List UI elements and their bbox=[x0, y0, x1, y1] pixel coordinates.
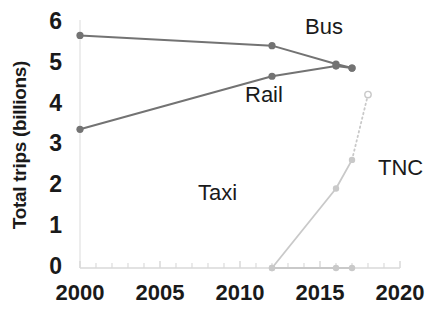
series-tnc bbox=[269, 91, 371, 271]
data-point bbox=[333, 265, 339, 271]
series-rail bbox=[76, 62, 355, 132]
plot-area bbox=[0, 0, 442, 315]
series-line-segment bbox=[80, 35, 272, 45]
data-point bbox=[349, 265, 355, 271]
series-layer bbox=[76, 32, 371, 271]
series-line-segment bbox=[352, 95, 368, 160]
series-line-segment bbox=[336, 160, 352, 189]
series-label-taxi: Taxi bbox=[198, 180, 237, 206]
data-point bbox=[269, 265, 275, 271]
series-line-segment bbox=[272, 188, 336, 268]
series-line-segment bbox=[272, 66, 336, 76]
series-line-segment bbox=[272, 46, 336, 64]
series-label-rail: Rail bbox=[245, 82, 283, 108]
series-label-bus: Bus bbox=[305, 14, 343, 40]
data-point bbox=[76, 126, 83, 133]
data-point bbox=[333, 185, 339, 191]
data-point bbox=[332, 62, 339, 69]
line-chart: Total trips (billions) 6 5 4 3 2 1 0 200… bbox=[0, 0, 442, 315]
series-label-tnc: TNC bbox=[378, 155, 423, 181]
series-taxi bbox=[269, 265, 355, 271]
data-point bbox=[76, 32, 83, 39]
data-point bbox=[268, 42, 275, 49]
axes-layer bbox=[80, 20, 400, 268]
data-point bbox=[268, 73, 275, 80]
data-point bbox=[349, 157, 355, 163]
data-point-open bbox=[365, 91, 371, 97]
data-point bbox=[348, 64, 355, 71]
series-line-segment bbox=[80, 76, 272, 129]
